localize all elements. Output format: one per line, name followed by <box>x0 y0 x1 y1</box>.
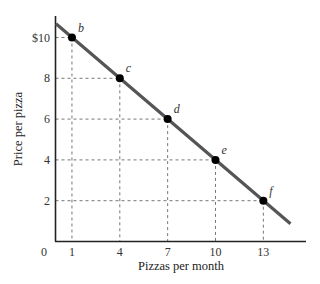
point-label-f: f <box>269 184 274 198</box>
y-tick-labels: 2468$10 <box>32 31 50 208</box>
y-tick: 2 <box>44 194 50 208</box>
point-e <box>212 156 220 164</box>
y-tick: 4 <box>44 153 50 167</box>
y-tick: $10 <box>32 31 50 45</box>
demand-line <box>56 24 290 224</box>
point-d <box>164 115 172 123</box>
x-tick: 13 <box>257 245 269 259</box>
point-c <box>116 74 124 82</box>
x-tick: 7 <box>165 245 171 259</box>
x-axis-label: Pizzas per month <box>138 259 225 273</box>
data-points: bcdef <box>68 21 274 205</box>
point-label-b: b <box>78 21 84 35</box>
x-tick: 10 <box>210 245 222 259</box>
demand-chart: 01471013 2468$10 bcdef Pizzas per month … <box>0 0 320 284</box>
x-tick: 0 <box>41 245 47 259</box>
point-label-d: d <box>174 102 181 116</box>
y-axis-label: Price per pizza <box>11 91 25 166</box>
x-tick-labels: 01471013 <box>41 245 269 259</box>
point-label-e: e <box>222 143 228 157</box>
point-label-c: c <box>126 61 132 75</box>
y-tick: 6 <box>44 112 50 126</box>
y-tick: 8 <box>44 71 50 85</box>
dashed-guides <box>56 38 264 242</box>
x-tick: 1 <box>69 245 75 259</box>
point-f <box>259 197 267 205</box>
x-tick: 4 <box>117 245 123 259</box>
point-b <box>68 34 76 42</box>
